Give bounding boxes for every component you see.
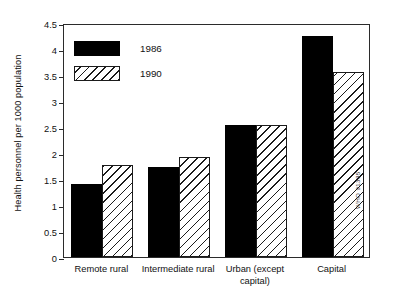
legend-label-1986: 1986 xyxy=(140,43,162,54)
y-axis-tick-label: 4 xyxy=(52,46,57,56)
chart-legend: 19861990 xyxy=(74,38,162,88)
legend-item-1986: 1986 xyxy=(74,38,162,58)
bar-1990-remote-rural xyxy=(102,165,133,257)
x-axis-label-line: capital) xyxy=(195,276,315,288)
bar-1986-urban-except-capital- xyxy=(225,125,256,257)
y-axis-tick-label: 2.5 xyxy=(44,124,57,134)
y-axis-tick-mark xyxy=(59,181,64,182)
bar-1986-remote-rural xyxy=(71,184,102,257)
x-axis-group-label: Capital xyxy=(272,264,392,276)
y-axis-tick-label: 2 xyxy=(52,150,57,160)
y-axis-tick-label: 3 xyxy=(52,98,57,108)
y-axis-tick-label: 4.5 xyxy=(44,20,57,30)
chart-figure: Health personnel per 1000 population 00.… xyxy=(0,0,395,303)
legend-swatch-1990 xyxy=(74,66,120,81)
y-axis-tick-label: 3.5 xyxy=(44,72,57,82)
y-axis-tick-mark xyxy=(59,51,64,52)
y-axis-tick-label: 0 xyxy=(52,254,57,264)
legend-label-1990: 1990 xyxy=(140,68,162,79)
y-axis-tick-mark xyxy=(59,155,64,156)
x-axis-label-line: Capital xyxy=(272,264,392,276)
y-axis-tick-mark xyxy=(59,129,64,130)
y-axis-tick-label: 1.5 xyxy=(44,176,57,186)
y-axis-tick-mark xyxy=(59,233,64,234)
y-axis-tick-mark xyxy=(59,25,64,26)
bar-1986-intermediate-rural xyxy=(148,167,179,257)
legend-item-1990: 1990 xyxy=(74,63,162,83)
y-axis-tick-mark xyxy=(59,103,64,104)
y-axis-tick-mark xyxy=(59,207,64,208)
y-axis-tick-mark xyxy=(59,259,64,260)
y-axis-tick-label: 0.5 xyxy=(44,228,57,238)
bar-1986-capital xyxy=(302,36,333,257)
watermark-text: WHO 91335 xyxy=(354,149,361,209)
legend-swatch-1986 xyxy=(74,41,120,56)
y-axis-title: Health personnel per 1000 population xyxy=(13,23,23,243)
bar-1990-intermediate-rural xyxy=(179,157,210,257)
y-axis-tick-mark xyxy=(59,77,64,78)
bar-1990-urban-except-capital- xyxy=(256,125,287,257)
y-axis-tick-label: 1 xyxy=(52,202,57,212)
